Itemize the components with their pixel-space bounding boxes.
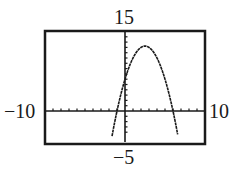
xmin-label: −10 bbox=[4, 101, 35, 121]
axes bbox=[46, 32, 204, 142]
parabola-curve bbox=[112, 46, 178, 136]
ymax-label: 15 bbox=[114, 7, 134, 27]
ymin-label: −5 bbox=[113, 147, 134, 167]
xmax-label: 10 bbox=[209, 101, 229, 121]
